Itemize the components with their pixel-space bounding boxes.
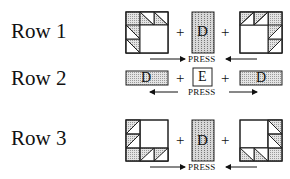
row3-plus-1: + bbox=[176, 133, 184, 148]
row2-right-letter: D bbox=[256, 71, 266, 85]
row1-right-block bbox=[240, 12, 282, 53]
row1-left-block bbox=[126, 12, 168, 53]
row2-left-letter: D bbox=[141, 71, 151, 85]
row3-right-block bbox=[240, 120, 282, 161]
row3-left-block bbox=[126, 120, 168, 161]
row1-plus-1: + bbox=[176, 25, 184, 40]
row2-press-label: PRESS bbox=[188, 88, 216, 97]
row3-plus-2: + bbox=[221, 133, 229, 148]
row2-label: Row 2 bbox=[11, 68, 66, 89]
row1-press-label: PRESS bbox=[188, 55, 216, 64]
row3-press-label: PRESS bbox=[188, 163, 216, 172]
row1-plus-2: + bbox=[221, 25, 229, 40]
row2-plus-1: + bbox=[176, 71, 184, 86]
row2-plus-2: + bbox=[221, 71, 229, 86]
row3-center-letter: D bbox=[197, 133, 208, 148]
row1-center-letter: D bbox=[197, 24, 208, 39]
row2-center-letter: E bbox=[198, 70, 207, 84]
row3-label: Row 3 bbox=[11, 128, 66, 149]
row1-label: Row 1 bbox=[11, 21, 66, 42]
